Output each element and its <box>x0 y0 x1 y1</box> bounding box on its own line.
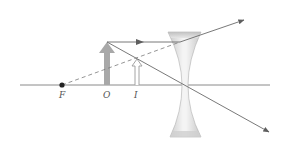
parallel-ray-arrowhead <box>136 39 144 45</box>
object-arrow <box>99 42 115 85</box>
ray-diagram: F O I <box>0 0 282 150</box>
focal-point-label: F <box>58 90 66 100</box>
image-arrow <box>132 59 142 85</box>
image-label: I <box>133 90 138 100</box>
object-label: O <box>103 90 111 100</box>
refracted-ray <box>180 20 244 42</box>
virtual-ray-extension <box>62 42 180 85</box>
focal-point-dot <box>59 82 64 87</box>
